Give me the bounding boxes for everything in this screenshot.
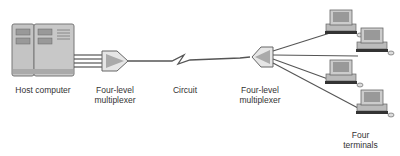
- host-computer-icon: [12, 24, 74, 76]
- terminal-icon-2: [356, 28, 394, 55]
- right-multiplexer-icon: [252, 47, 273, 67]
- terminal-icon-1: [325, 10, 363, 37]
- circuit-label: Circuit: [165, 85, 205, 95]
- circuit-link: [128, 55, 250, 64]
- terminal-icon-4: [356, 90, 394, 117]
- left-multiplexer-label: Four-level multiplexer: [85, 85, 145, 105]
- terminal-icon-3: [325, 60, 363, 87]
- host-to-mux-lines: [74, 55, 102, 67]
- left-multiplexer-icon: [102, 51, 128, 71]
- host-computer-label: Host computer: [8, 85, 78, 95]
- terminals-label: Four terminals: [338, 130, 383, 150]
- right-multiplexer-label: Four-level multiplexer: [230, 85, 290, 105]
